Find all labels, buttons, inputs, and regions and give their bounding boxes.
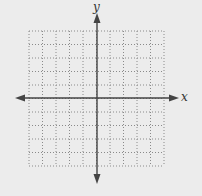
y-axis-label: y <box>93 1 100 13</box>
coordinate-plane: y x <box>0 0 202 196</box>
coordinate-grid <box>0 0 202 196</box>
y-axis-up-arrow-icon <box>94 13 101 23</box>
x-axis-left-arrow-icon <box>15 95 25 102</box>
x-axis-right-arrow-icon <box>169 95 179 102</box>
axes <box>15 13 179 184</box>
y-axis-down-arrow-icon <box>94 174 101 184</box>
x-axis-label: x <box>181 91 188 103</box>
